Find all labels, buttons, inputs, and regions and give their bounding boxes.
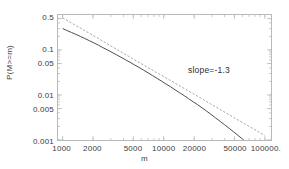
- y-tick-label: 0.005: [33, 105, 54, 114]
- axis-tick-marks: [58, 15, 271, 140]
- slope-annotation: slope=-1.3: [188, 65, 230, 75]
- power-law-fit-line: [63, 18, 265, 136]
- y-tick-label: 0.05: [38, 59, 54, 68]
- x-tick-label: 50000: [223, 144, 246, 153]
- y-axis-title: P(M>=m): [5, 30, 14, 96]
- x-tick-label: 2000: [83, 144, 102, 153]
- x-tick-label: 100000.: [251, 144, 281, 153]
- fit-line-group: [63, 18, 265, 136]
- x-tick-label: 1000: [52, 144, 71, 153]
- plot-area: [57, 14, 272, 141]
- x-axis-title: m: [0, 154, 289, 163]
- plot-canvas: [58, 15, 271, 140]
- x-tick-label: 20000: [183, 144, 206, 153]
- x-tick-label: 10000: [152, 144, 175, 153]
- y-tick-label: 0.1: [42, 45, 54, 54]
- empirical-ccdf-curve: [63, 29, 267, 140]
- y-tick-label: 0.5: [42, 13, 54, 22]
- y-tick-label: 0.01: [38, 91, 54, 100]
- x-tick-label: 5000: [124, 144, 143, 153]
- chart-figure: 0.50.10.050.010.0050.001 P(M>=m) slope=-…: [0, 0, 289, 169]
- data-curve-group: [63, 29, 267, 140]
